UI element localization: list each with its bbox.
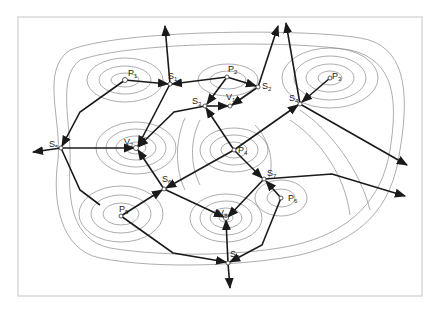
svg-text:S2: S2 (262, 81, 272, 92)
node-P2: P2 (225, 64, 238, 79)
svg-text:P5: P5 (119, 204, 129, 215)
svg-text:S3: S3 (192, 96, 202, 107)
svg-text:V2: V2 (124, 137, 134, 148)
node-S5: S5 (49, 139, 63, 150)
node-P5: P5 (119, 204, 129, 218)
svg-text:P3: P3 (332, 71, 342, 82)
node-P3: P3 (328, 71, 342, 82)
svg-text:V3: V3 (218, 208, 228, 219)
node-S3: S3 (192, 96, 207, 108)
svg-text:P1: P1 (128, 68, 138, 79)
svg-text:S6: S6 (162, 174, 172, 185)
flow-edges (33, 23, 407, 288)
svg-text:P4: P4 (238, 145, 248, 156)
contour-flow-diagram: P1 P2 P3 P4 P5 P6 S1 S2 S3 S4 S5 S6 S7 S… (0, 0, 441, 313)
svg-text:S1: S1 (168, 71, 178, 82)
svg-text:V1: V1 (226, 92, 236, 103)
svg-text:S8: S8 (230, 249, 240, 260)
diagram-frame (18, 17, 422, 296)
node-P6: P6 (279, 193, 298, 204)
svg-text:S4: S4 (289, 93, 299, 104)
node-S2: S2 (256, 81, 272, 92)
svg-text:S7: S7 (267, 168, 277, 179)
svg-text:P2: P2 (228, 64, 238, 75)
svg-text:P6: P6 (288, 193, 298, 204)
svg-text:S5: S5 (49, 139, 59, 150)
node-V3: V3 (218, 208, 229, 221)
node-S4: S4 (289, 93, 302, 106)
node-S6: S6 (162, 174, 172, 191)
